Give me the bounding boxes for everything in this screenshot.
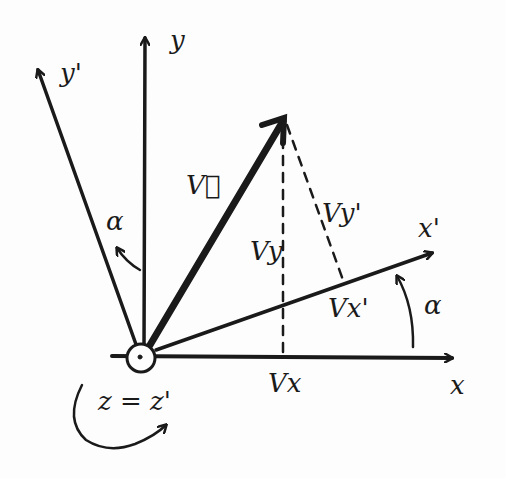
rotation-diagram: y y' V⃗ α Vy' Vy x' Vx' α Vx x z = z' [0,0,506,478]
x-axis [112,356,452,358]
vy-label: Vy [250,238,282,264]
x-prime-axis-label: x' [418,215,440,241]
y-axis-label: y [170,27,185,53]
alpha-right-label: α [424,292,442,318]
vx-label: Vx [268,370,301,396]
alpha-top-label: α [106,208,124,234]
alpha-arc-top [117,248,140,270]
alpha-arc-right [397,276,413,347]
vx-prime-label: Vx' [328,295,369,321]
x-axis-label: x [450,372,465,398]
y-prime-axis-label: y' [60,60,82,86]
vy-prime-label: Vy' [322,200,362,226]
z-axis-label: z = z' [98,388,171,414]
y-axis [144,38,145,350]
vector-v-label: V⃗ [186,172,220,198]
